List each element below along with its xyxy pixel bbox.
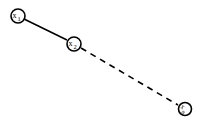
node-x1-label: x [13, 11, 17, 20]
node-x2-label: x [69, 39, 73, 48]
edge-x1-x2 [24, 19, 67, 40]
node-x2-subscript: 2 [74, 43, 77, 50]
node-xn: x n [177, 103, 191, 116]
node-x1-subscript: 1 [18, 15, 21, 22]
node-x2: x 2 [67, 37, 81, 51]
node-x1: x 1 [11, 9, 25, 23]
chain-diagram: x 1 x 2 x n [0, 0, 209, 131]
edge-x2-xn [81, 48, 178, 105]
